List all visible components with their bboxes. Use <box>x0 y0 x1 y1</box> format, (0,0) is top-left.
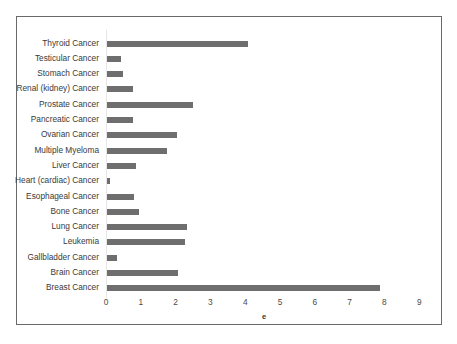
bar <box>107 56 121 62</box>
x-tick-label: 8 <box>374 297 394 307</box>
bar <box>107 209 139 215</box>
category-label: Thyroid Cancer <box>42 36 99 51</box>
bar <box>107 270 178 276</box>
bar-row: Bone Cancer <box>0 204 457 219</box>
bar <box>107 41 248 47</box>
x-tick-label: 6 <box>305 297 325 307</box>
bar <box>107 148 167 154</box>
bar <box>107 255 117 261</box>
x-tick-label: 5 <box>270 297 290 307</box>
bar <box>107 285 380 291</box>
bar-row: Liver Cancer <box>0 158 457 173</box>
bar-row: Gallbladder Cancer <box>0 250 457 265</box>
bar-row: Prostate Cancer <box>0 97 457 112</box>
category-label: Esophageal Cancer <box>26 189 99 204</box>
category-label: Breast Cancer <box>46 280 99 295</box>
category-label: Ovarian Cancer <box>41 127 99 142</box>
category-label: Prostate Cancer <box>39 97 99 112</box>
category-label: Leukemia <box>63 234 99 249</box>
category-label: Heart (cardiac) Cancer <box>15 173 99 188</box>
bar-row: Leukemia <box>0 234 457 249</box>
category-label: Liver Cancer <box>52 158 99 173</box>
bar <box>107 224 187 230</box>
bar <box>107 163 136 169</box>
bar-row: Brain Cancer <box>0 265 457 280</box>
bar-row: Testicular Cancer <box>0 51 457 66</box>
x-tick-label: 9 <box>409 297 429 307</box>
bar <box>107 239 185 245</box>
bar <box>107 194 134 200</box>
bar-row: Thyroid Cancer <box>0 36 457 51</box>
bar <box>107 132 177 138</box>
category-label: Brain Cancer <box>51 265 99 280</box>
category-label: Lung Cancer <box>51 219 99 234</box>
bar-row: Breast Cancer <box>0 280 457 295</box>
bar-row: Renal (kidney) Cancer <box>0 81 457 96</box>
bar <box>107 178 110 184</box>
x-tick-label: 7 <box>340 297 360 307</box>
bar <box>107 117 133 123</box>
bar-row: Ovarian Cancer <box>0 127 457 142</box>
bar <box>107 102 193 108</box>
bar-row: Esophageal Cancer <box>0 189 457 204</box>
category-label: Pancreatic Cancer <box>31 112 99 127</box>
bar <box>107 71 123 77</box>
x-tick-label: 2 <box>166 297 186 307</box>
category-label: Bone Cancer <box>51 204 99 219</box>
bar-row: Stomach Cancer <box>0 66 457 81</box>
x-tick-label: 3 <box>200 297 220 307</box>
bar-row: Pancreatic Cancer <box>0 112 457 127</box>
x-tick-label: 1 <box>131 297 151 307</box>
x-tick-label: 0 <box>96 297 116 307</box>
category-label: Multiple Myeloma <box>34 143 99 158</box>
category-label: Gallbladder Cancer <box>28 250 99 265</box>
bar <box>107 86 133 92</box>
category-label: Stomach Cancer <box>37 66 99 81</box>
x-tick-label: 4 <box>235 297 255 307</box>
x-axis-label: e <box>262 312 266 321</box>
category-label: Testicular Cancer <box>35 51 99 66</box>
category-label: Renal (kidney) Cancer <box>16 81 99 96</box>
bar-row: Heart (cardiac) Cancer <box>0 173 457 188</box>
bar-row: Lung Cancer <box>0 219 457 234</box>
bar-row: Multiple Myeloma <box>0 143 457 158</box>
